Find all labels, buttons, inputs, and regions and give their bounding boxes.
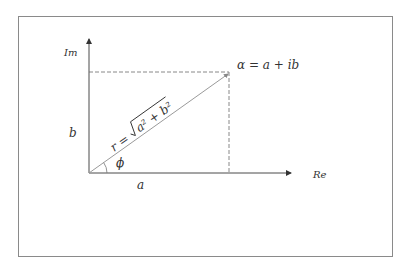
radius-formula-prefix: r = <box>108 132 132 155</box>
point-label: α = a + ib <box>237 58 299 72</box>
angle-arc <box>104 163 107 173</box>
real-component-label: a <box>137 178 144 192</box>
real-axis-label: Re <box>312 169 327 180</box>
imaginary-axis-label: Im <box>63 47 77 58</box>
radius-formula: r = a² + b² <box>105 97 176 155</box>
radius-vector <box>89 74 228 173</box>
imaginary-component-label: b <box>69 126 77 140</box>
argand-diagram: Im Re α = a + ib b a ϕ r = a² + b² <box>0 0 411 270</box>
angle-label: ϕ <box>116 156 124 170</box>
